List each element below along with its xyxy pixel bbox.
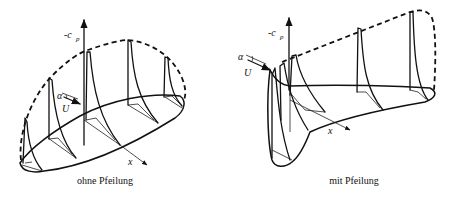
cp-peak-4	[357, 28, 383, 110]
caption-swept: mit Pfeilung	[329, 175, 379, 186]
freestream-indicator: α U	[57, 90, 80, 114]
cp-envelope-dashed	[21, 40, 186, 160]
cp-peak-3	[86, 52, 120, 145]
cp-peak-2	[49, 78, 76, 158]
cp-axis-label: -c	[268, 27, 276, 38]
wing-pressure-diagram: -c p x α U ohne Pfeilung	[0, 0, 458, 198]
svg-text:p: p	[75, 35, 80, 43]
alpha-label: α	[57, 90, 63, 101]
velocity-label: U	[62, 103, 70, 114]
svg-text:p: p	[279, 33, 284, 41]
cp-peak-4	[128, 40, 158, 123]
panel-swept: -c p x α U mit Pfeilung	[238, 10, 435, 186]
velocity-label: U	[244, 67, 252, 78]
cp-envelope-dashed	[282, 10, 435, 90]
caption-unswept: ohne Pfeilung	[77, 175, 133, 186]
cp-peak-2	[280, 63, 308, 130]
x-axis-label: x	[127, 156, 133, 167]
x-axis-label: x	[327, 125, 333, 136]
x-axis	[120, 145, 147, 165]
cp-axis-label: -c	[64, 29, 72, 40]
wing-planform-outline	[20, 95, 184, 172]
cp-peak-3	[290, 55, 325, 112]
panel-unswept: -c p x α U ohne Pfeilung	[20, 20, 185, 186]
freestream-indicator: α U	[238, 51, 270, 78]
alpha-label: α	[238, 51, 244, 62]
